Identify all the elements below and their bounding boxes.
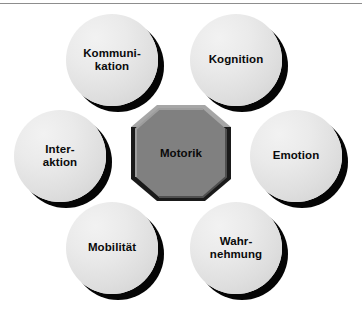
node-kommunikation[interactable]: Kommuni- kation	[66, 14, 158, 106]
center-node-motorik[interactable]: Motorik	[128, 102, 234, 204]
node-interaktion[interactable]: Inter- aktion	[14, 110, 106, 202]
top-divider-rule	[0, 3, 362, 4]
node-wahrnehmung-label: Wahr- nehmung	[206, 235, 266, 262]
node-mobilitaet-label: Mobilität	[84, 241, 140, 254]
node-kognition-label: Kognition	[205, 53, 268, 66]
node-kommunikation-label: Kommuni- kation	[79, 47, 145, 74]
node-emotion[interactable]: Emotion	[250, 110, 342, 202]
node-kognition[interactable]: Kognition	[190, 14, 282, 106]
node-emotion-label: Emotion	[269, 149, 324, 162]
node-wahrnehmung[interactable]: Wahr- nehmung	[190, 202, 282, 294]
node-interaktion-label: Inter- aktion	[39, 143, 81, 170]
diagram-canvas: Kommuni- kation Kognition Inter- aktion …	[0, 0, 362, 309]
node-mobilitaet[interactable]: Mobilität	[66, 202, 158, 294]
hexagon-icon	[128, 102, 234, 204]
